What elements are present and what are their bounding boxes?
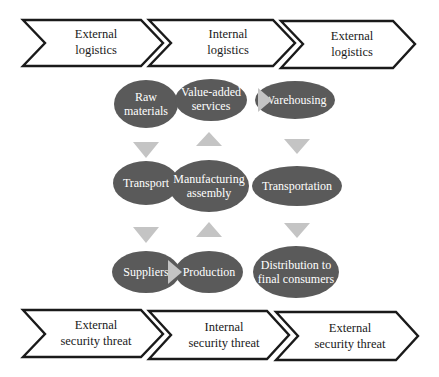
node-label: materials: [124, 104, 168, 118]
arrow-up-icon: [196, 222, 222, 237]
chevron-external-security-threat-2: [276, 312, 418, 360]
node-label: Raw: [135, 90, 157, 104]
chevron-label: logistics: [207, 43, 249, 57]
node-label: Value-added: [181, 85, 241, 99]
chevron-label: External: [75, 27, 118, 41]
node-label: assembly: [187, 186, 232, 200]
chevron-label: security threat: [188, 336, 260, 350]
chevron-label: logistics: [331, 45, 373, 59]
node-label: services: [192, 99, 231, 113]
chevron-label: External: [331, 29, 374, 43]
node-label: Manufacturing: [173, 172, 244, 186]
node-label: Suppliers: [123, 265, 169, 279]
chevron-label: External: [75, 318, 118, 332]
chevron-label: External: [329, 321, 372, 335]
node-label: Transportation: [262, 179, 332, 193]
arrow-down-icon: [133, 227, 159, 243]
node-label: Distribution to: [261, 258, 331, 272]
node-label: Production: [183, 265, 236, 279]
arrow-down-icon: [284, 139, 310, 154]
arrow-down-icon: [133, 142, 159, 158]
chevron-label: Internal: [209, 27, 248, 41]
chevron-label: security threat: [314, 337, 386, 351]
node-label: Warehousing: [263, 93, 326, 107]
chevron-label: logistics: [75, 43, 117, 57]
arrow-down-icon: [284, 223, 310, 238]
nodes: Raw materials Transport Suppliers Produc…: [112, 79, 342, 298]
node-label: Transport: [123, 176, 170, 190]
node-label: final consumers: [258, 272, 335, 286]
top-chevron-row: External logistics Internal logistics Ex…: [23, 20, 415, 68]
logistics-diagram: External logistics Internal logistics Ex…: [0, 0, 439, 377]
chevron-internal-security-threat: [149, 311, 289, 359]
arrow-up-icon: [196, 132, 222, 146]
chevron-label: security threat: [60, 334, 132, 348]
chevron-label: Internal: [205, 320, 244, 334]
bottom-chevron-row: External security threat Internal securi…: [23, 310, 418, 360]
